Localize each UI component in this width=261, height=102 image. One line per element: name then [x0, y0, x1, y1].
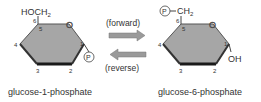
glucose-6-phosphate: P CH2 O 6 5 4 3 2 1 OH glucose-6-phospha… — [158, 6, 242, 97]
reverse-arrow — [110, 49, 146, 60]
left-molecule-name: glucose-1-phosphate — [8, 87, 92, 97]
right-ch2-label: CH2 — [177, 6, 194, 17]
right-ring-oxygen: O — [209, 20, 216, 30]
right-molecule-name: glucose-6-phosphate — [158, 87, 242, 97]
left-ring — [20, 24, 84, 64]
forward-arrow — [109, 30, 145, 41]
left-c4-label: 4 — [14, 42, 18, 48]
left-c2-label: 2 — [69, 68, 73, 74]
glucose-1-phosphate: HOCH2 O 6 5 4 3 2 1 P glucose-1-phosphat… — [8, 7, 94, 97]
right-c2-label: 2 — [213, 68, 217, 74]
left-ring-oxygen: O — [66, 20, 73, 30]
right-c6-label: 6 — [176, 18, 180, 24]
reverse-label: (reverse) — [105, 63, 139, 73]
left-c6-label: 6 — [33, 18, 37, 24]
equilibrium-arrows: (forward) (reverse) — [105, 18, 146, 73]
right-c3-label: 3 — [179, 68, 183, 74]
forward-label: (forward) — [106, 18, 140, 28]
right-phosphate-label: P — [162, 8, 167, 15]
left-hoch2-label: HOCH2 — [21, 7, 52, 18]
left-phosphate-label: P — [86, 54, 91, 61]
right-c4-label: 4 — [158, 42, 162, 48]
left-c3-label: 3 — [36, 68, 40, 74]
reaction-diagram: HOCH2 O 6 5 4 3 2 1 P glucose-1-phosphat… — [0, 0, 261, 102]
right-hydroxyl-label: OH — [228, 54, 242, 64]
